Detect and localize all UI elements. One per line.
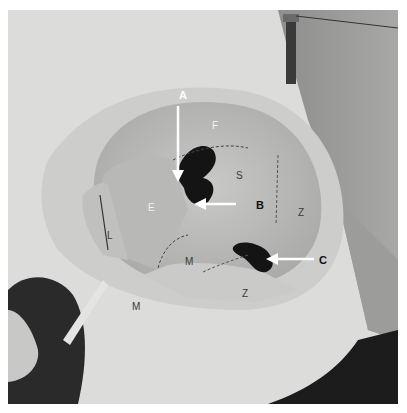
label-a: A	[179, 90, 187, 100]
label-maxilla-face: M	[132, 302, 140, 312]
label-maxilla-floor: M	[185, 257, 193, 267]
label-c: C	[319, 255, 327, 265]
label-ethmoid: E	[148, 203, 155, 213]
label-zygomatic-lateral: Z	[298, 208, 304, 218]
label-frontal: F	[212, 121, 218, 131]
skull-orbit-photo: A B C F S Z E L M Z M	[8, 10, 398, 404]
label-b: B	[256, 200, 264, 210]
label-sphenoid: S	[236, 171, 243, 181]
label-lacrimal: L	[107, 231, 113, 241]
label-zygomatic-floor: Z	[242, 289, 248, 299]
screw	[286, 14, 296, 84]
skull-illustration	[8, 10, 398, 404]
